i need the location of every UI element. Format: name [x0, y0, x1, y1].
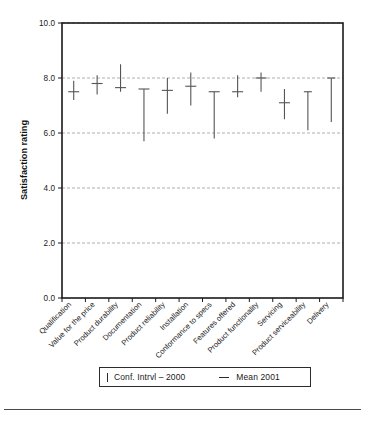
y-tick-label: 6.0	[44, 129, 56, 138]
legend-entry-mean: Mean 2001	[219, 372, 279, 382]
satisfaction-rating-chart: Satisfaction rating 0.02.04.06.08.010.0 …	[0, 0, 365, 422]
mean-marker-icon	[219, 377, 229, 378]
x-axis-category-labels: QualificationValue for the priceProduct …	[37, 300, 331, 360]
conf-interval-marker-icon	[107, 373, 108, 382]
legend-label-conf-intrvl: Conf. Intrvl – 2000	[114, 372, 185, 382]
y-tick-label: 10.0	[39, 19, 55, 28]
y-tick-label: 4.0	[44, 184, 56, 193]
chart-legend: Conf. Intrvl – 2000 Mean 2001	[99, 367, 311, 387]
legend-label-mean: Mean 2001	[236, 372, 279, 382]
x-category-label: Delivery	[305, 300, 331, 326]
legend-entry-conf-intrvl: Conf. Intrvl – 2000	[107, 372, 185, 382]
plot-area-background	[62, 23, 343, 298]
y-axis-ticks: 0.02.04.06.08.010.0	[39, 19, 62, 303]
y-tick-label: 8.0	[44, 74, 56, 83]
page-bottom-rule	[4, 409, 361, 410]
chart-figure: Satisfaction rating 0.02.04.06.08.010.0 …	[0, 0, 365, 422]
y-tick-label: 2.0	[44, 239, 56, 248]
y-axis-title: Satisfaction rating	[19, 120, 29, 200]
y-tick-label: 0.0	[44, 294, 56, 303]
